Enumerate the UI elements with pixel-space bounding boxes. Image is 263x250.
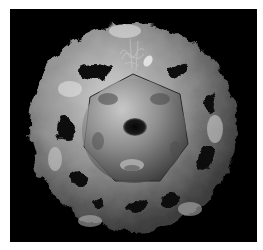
central-pore: [123, 118, 147, 136]
capsid-render: [10, 9, 257, 242]
image-frame: [10, 9, 257, 242]
